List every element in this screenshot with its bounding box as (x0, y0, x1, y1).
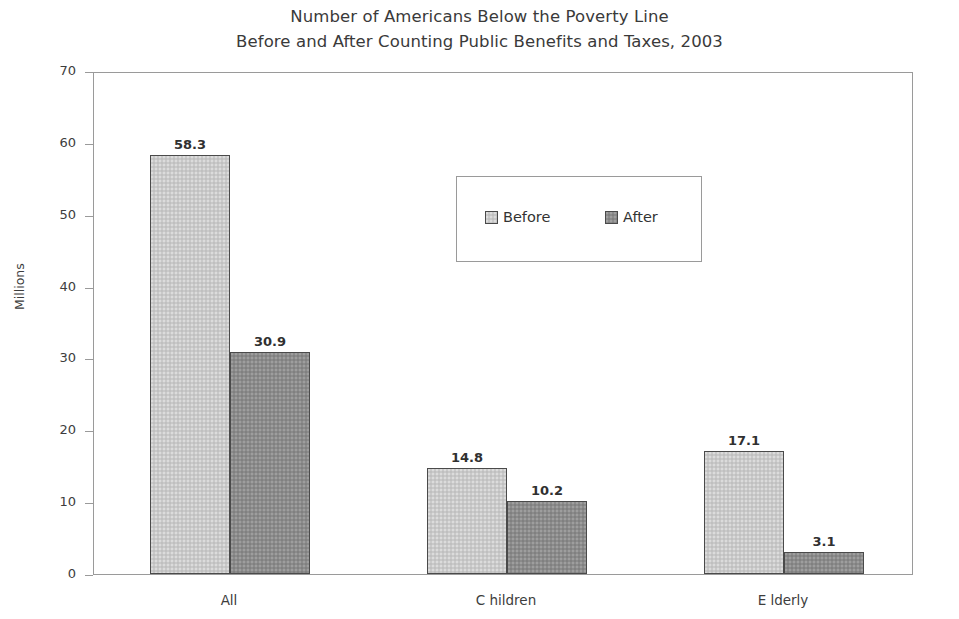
y-axis-tick-mark (85, 144, 93, 145)
y-axis-tick-mark (85, 288, 93, 289)
x-axis-category-label: C hildren (476, 592, 536, 608)
bar-value-label: 3.1 (812, 534, 835, 549)
chart-title-line-2: Before and After Counting Public Benefit… (0, 29, 959, 54)
y-axis-tick-label: 60 (36, 135, 76, 150)
plot-area: 58.330.914.810.217.13.1 (93, 72, 913, 575)
bar-value-label: 58.3 (174, 137, 206, 152)
legend-label: After (623, 209, 658, 225)
y-axis-tick-label: 20 (36, 422, 76, 437)
y-axis-title: Millions (12, 263, 27, 310)
y-axis-tick-label: 0 (36, 566, 76, 581)
y-axis-tick-mark (85, 359, 93, 360)
x-axis-category-label: E lderly (758, 592, 809, 608)
y-axis-tick-mark (85, 216, 93, 217)
y-axis-tick-label: 10 (36, 494, 76, 509)
legend-swatch-before-icon (485, 211, 498, 224)
bar-value-label: 10.2 (531, 483, 563, 498)
bar-value-label: 30.9 (254, 334, 286, 349)
y-axis-tick-mark (85, 72, 93, 73)
bar-before-1[interactable]: 14.8 (427, 468, 507, 574)
bar-before-2[interactable]: 17.1 (704, 451, 784, 574)
y-axis-tick-label: 70 (36, 63, 76, 78)
bar-after-1[interactable]: 10.2 (507, 501, 587, 574)
legend-entry-before[interactable]: Before (485, 209, 550, 225)
y-axis-tick-label: 40 (36, 279, 76, 294)
legend-entry-after[interactable]: After (605, 209, 658, 225)
chart-title-line-1: Number of Americans Below the Poverty Li… (0, 4, 959, 29)
y-axis-tick-label: 30 (36, 350, 76, 365)
bar-value-label: 14.8 (451, 450, 483, 465)
legend-swatch-after-icon (605, 211, 618, 224)
y-axis-tick-label: 50 (36, 207, 76, 222)
legend-label: Before (503, 209, 550, 225)
y-axis-tick-mark (85, 431, 93, 432)
y-axis-tick-mark (85, 503, 93, 504)
y-axis-tick-mark (85, 575, 93, 576)
x-axis-category-label: All (221, 592, 238, 608)
bar-before-0[interactable]: 58.3 (150, 155, 230, 574)
bar-after-0[interactable]: 30.9 (230, 352, 310, 574)
bar-value-label: 17.1 (728, 433, 760, 448)
bar-after-2[interactable]: 3.1 (784, 552, 864, 574)
chart-legend: BeforeAfter (456, 176, 702, 262)
chart-title: Number of Americans Below the Poverty Li… (0, 4, 959, 54)
